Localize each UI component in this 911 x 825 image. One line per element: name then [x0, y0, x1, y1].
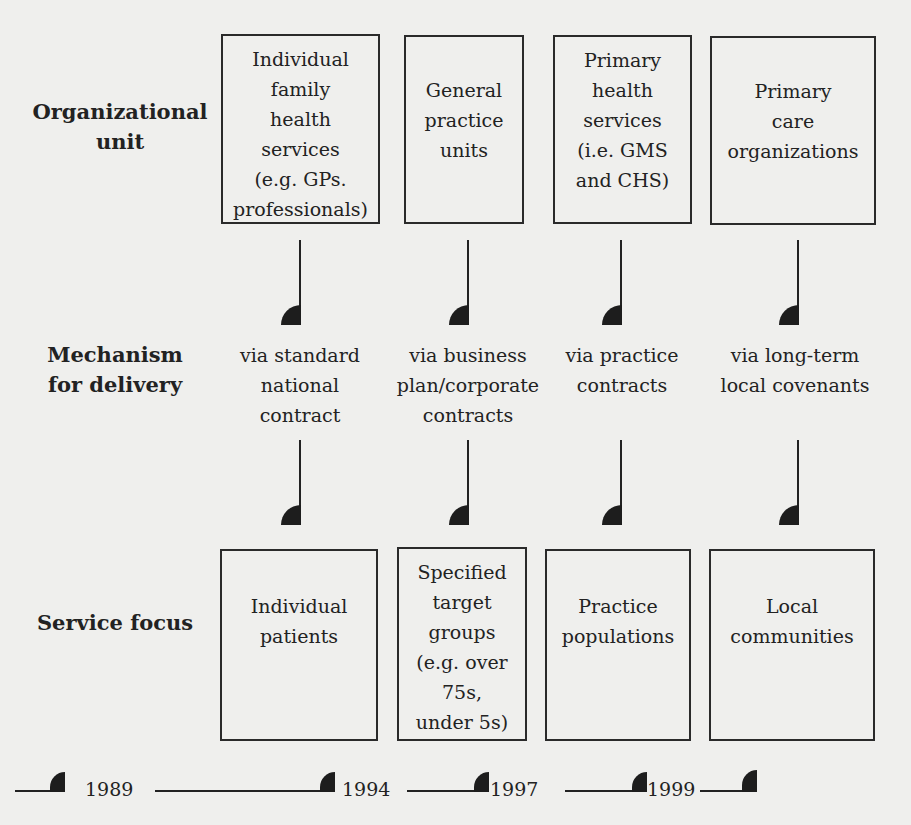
arrowhead-icon: [474, 772, 489, 792]
mechanism-text-1994: via business plan/corporate contracts: [378, 340, 558, 430]
row-label-organizational-unit: Organizational unit: [30, 97, 210, 157]
org-unit-text: General practice units: [425, 75, 504, 165]
service-focus-text: Specified target groups (e.g. over 75s, …: [416, 557, 508, 737]
arrowhead-icon: [779, 505, 799, 525]
arrowhead-icon: [742, 770, 757, 792]
mechanism-text-1999: via long-term local covenants: [700, 340, 890, 400]
row-label-mechanism: Mechanism for delivery: [40, 340, 190, 400]
org-unit-box-1997: Primary health services (i.e. GMS and CH…: [553, 35, 692, 224]
arrowhead-icon: [50, 772, 65, 792]
timeline-year: 1999: [647, 777, 695, 801]
arrowhead-icon: [281, 505, 301, 525]
org-unit-box-1999: Primary care organizations: [710, 36, 876, 225]
arrowhead-icon: [281, 305, 301, 325]
arrowhead-icon: [320, 772, 335, 792]
timeline-year: 1997: [490, 777, 538, 801]
arrowhead-icon: [449, 305, 469, 325]
service-focus-box-1994: Specified target groups (e.g. over 75s, …: [397, 547, 527, 741]
org-unit-box-1994: General practice units: [404, 35, 524, 224]
org-unit-text: Primary health services (i.e. GMS and CH…: [576, 45, 669, 195]
org-unit-text: Individual family health services (e.g. …: [233, 44, 368, 224]
service-focus-text: Practice populations: [562, 591, 675, 651]
arrowhead-icon: [449, 505, 469, 525]
arrowhead-icon: [779, 305, 799, 325]
row-label-service-focus: Service focus: [30, 608, 200, 638]
org-unit-text: Primary care organizations: [728, 76, 859, 166]
arrowhead-icon: [602, 505, 622, 525]
timeline-segment: [155, 790, 333, 792]
org-unit-box-1989: Individual family health services (e.g. …: [221, 34, 380, 224]
service-focus-text: Local communities: [730, 591, 853, 651]
service-focus-box-1999: Local communities: [709, 549, 875, 741]
timeline-year: 1989: [85, 777, 133, 801]
mechanism-text-1997: via practice contracts: [552, 340, 692, 400]
service-focus-box-1997: Practice populations: [545, 549, 691, 741]
arrowhead-icon: [602, 305, 622, 325]
timeline-year: 1994: [342, 777, 390, 801]
service-focus-box-1989: Individual patients: [220, 549, 378, 741]
arrowhead-icon: [632, 772, 647, 792]
mechanism-text-1989: via standard national contract: [225, 340, 375, 430]
service-focus-text: Individual patients: [251, 591, 348, 651]
